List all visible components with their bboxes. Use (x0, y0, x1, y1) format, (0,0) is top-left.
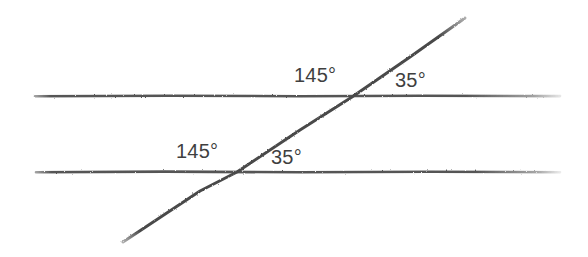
lower-parallel-line (36, 172, 560, 173)
geometry-diagram-canvas: 145° 35° 145° 35° (0, 0, 588, 257)
upper-acute-angle-label: 35° (395, 70, 426, 90)
upper-parallel-line (35, 96, 560, 97)
transversal-line (123, 18, 465, 242)
geometry-figure (0, 0, 588, 257)
lower-obtuse-angle-label: 145° (176, 141, 218, 161)
lower-acute-angle-label: 35° (271, 147, 302, 167)
upper-obtuse-angle-label: 145° (294, 65, 336, 85)
